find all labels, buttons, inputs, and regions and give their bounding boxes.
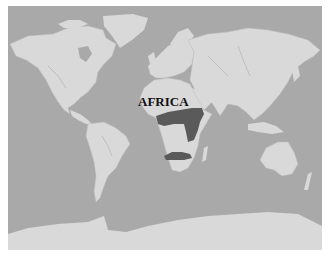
- south-america: [86, 122, 130, 202]
- map-graphic: [8, 6, 322, 250]
- antarctica: [8, 212, 322, 250]
- north-america: [10, 26, 116, 114]
- australia: [260, 142, 298, 176]
- africa-label: AFRICA: [138, 94, 189, 110]
- world-map: AFRICA: [8, 6, 322, 250]
